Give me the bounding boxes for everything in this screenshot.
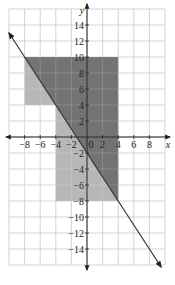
y-tick-label: 2 [79, 116, 84, 127]
x-tick-label: −4 [50, 139, 61, 150]
y-tick-label: −6 [73, 180, 84, 191]
y-tick-label: 4 [79, 100, 84, 111]
y-tick-label: −4 [73, 164, 84, 175]
y-tick-label: 6 [79, 84, 84, 95]
y-tick-label: 14 [74, 20, 84, 31]
x-tick-label: 8 [147, 139, 152, 150]
x-tick-label: 4 [116, 139, 121, 150]
y-tick-label: −8 [73, 196, 84, 207]
y-tick-label: 8 [79, 68, 84, 79]
coordinate-plane: −8−6−4−2024681412108642−2−4−6−8−10−12−14… [0, 0, 175, 285]
axes [6, 4, 170, 270]
x-tick-label: −8 [19, 139, 30, 150]
x-axis-label: x [165, 139, 171, 150]
x-tick-label: 6 [131, 139, 136, 150]
y-tick-label: −14 [68, 244, 84, 255]
y-tick-label: −12 [68, 228, 84, 239]
y-tick-label: −10 [68, 212, 84, 223]
x-tick-label: −6 [35, 139, 46, 150]
x-tick-label: 0 [89, 139, 94, 150]
y-axis-label: y [79, 5, 85, 16]
y-tick-label: −2 [73, 148, 84, 159]
y-tick-label: 12 [74, 36, 84, 47]
x-tick-label: 2 [100, 139, 105, 150]
y-tick-label: 10 [74, 52, 84, 63]
